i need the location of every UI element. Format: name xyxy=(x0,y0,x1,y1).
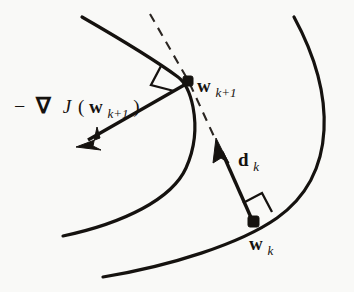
gradient-minus-sign: − xyxy=(14,95,25,117)
w-next-subscript: k+1 xyxy=(215,85,236,100)
gradient-function-letter: J xyxy=(63,96,73,117)
outer-contour xyxy=(103,17,324,277)
svg-text:w k+1: w k+1 xyxy=(197,75,237,100)
w-k-subscript: k xyxy=(267,243,273,258)
d-k-subscript: k xyxy=(253,159,259,174)
gradient-vector-letter: w xyxy=(89,96,103,117)
figure-container: − ∇ J ( w k+1 ) w k+1 d k xyxy=(0,0,354,292)
svg-text:− ∇ J: − ∇ J ( w k+1 ) xyxy=(14,93,140,122)
gradient-close-paren: ) xyxy=(133,96,139,118)
svg-text:w k: w k xyxy=(249,233,273,258)
search-direction-arrowhead xyxy=(213,138,229,163)
point-label-w-current: w k xyxy=(249,233,273,258)
gradient-subscript: k+1 xyxy=(108,106,129,121)
point-marker-w-current xyxy=(248,216,259,227)
w-next-vector-letter: w xyxy=(197,75,211,96)
point-marker-w-next xyxy=(183,76,193,86)
gradient-open-paren: ( xyxy=(78,96,84,118)
negative-gradient-label: − ∇ J ( w k+1 ) xyxy=(14,93,140,122)
direction-label-d-k: d k xyxy=(238,149,259,174)
d-k-vector-letter: d xyxy=(238,149,249,170)
conjugate-gradient-diagram: − ∇ J ( w k+1 ) w k+1 d k xyxy=(0,0,354,292)
point-label-w-next: w k+1 xyxy=(197,75,237,100)
nabla-icon: ∇ xyxy=(35,93,52,118)
inner-contour xyxy=(63,17,195,236)
w-k-vector-letter: w xyxy=(249,233,263,254)
svg-text:d k: d k xyxy=(238,149,259,174)
